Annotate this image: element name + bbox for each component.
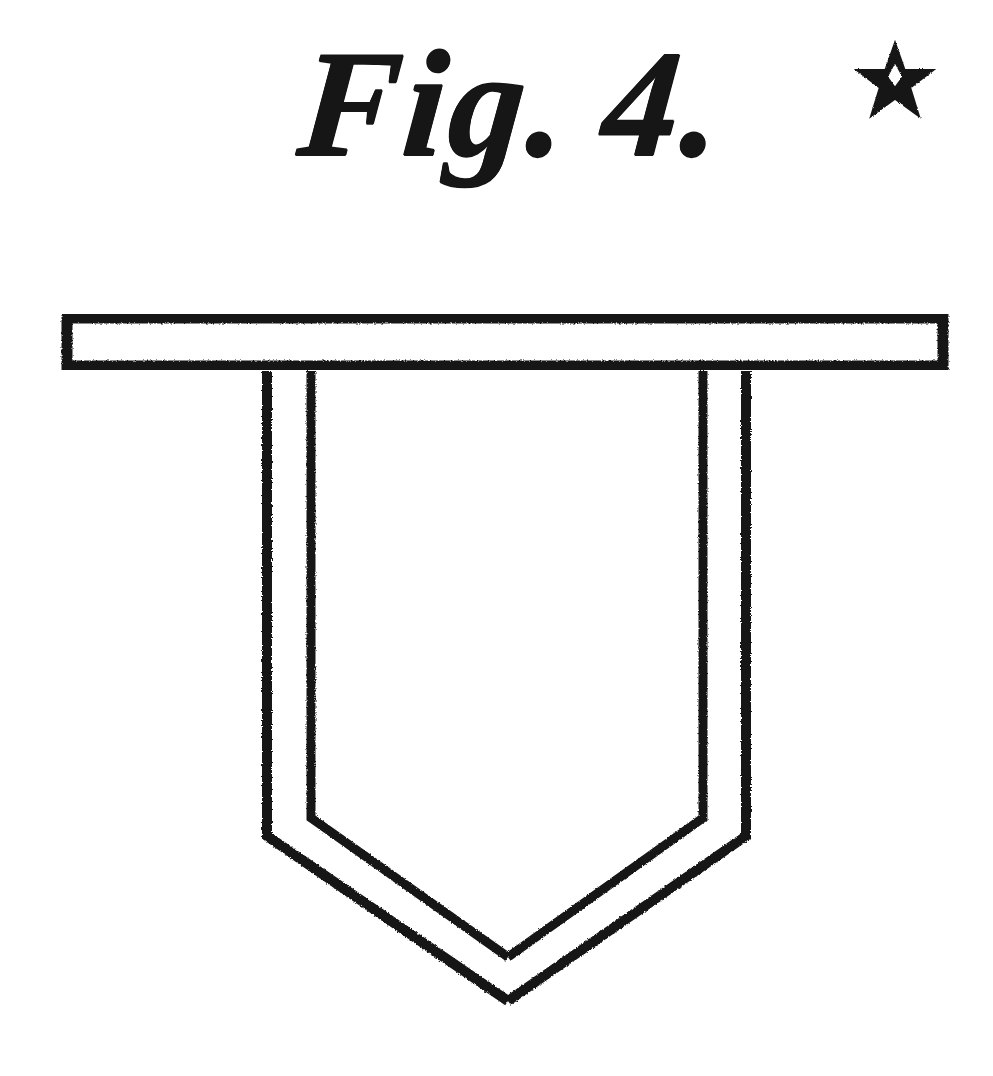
figure-drawing xyxy=(0,0,993,1076)
plate-background xyxy=(0,0,993,1076)
engraving-plate: Fig.4. xyxy=(0,0,993,1076)
